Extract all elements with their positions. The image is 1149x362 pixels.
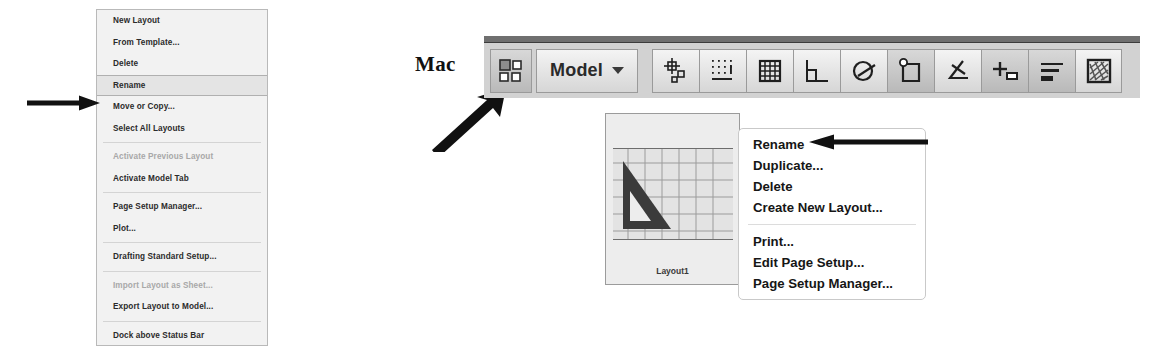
grid-snap-icon [755,56,785,86]
transparency-button[interactable] [1075,49,1122,93]
mac-menu-item[interactable]: Print... [739,231,925,252]
model-tab-button[interactable]: Model [536,49,638,93]
dynamic-ucs-button[interactable] [981,49,1028,93]
polar-tracking-button[interactable] [840,49,887,93]
windows-menu-item[interactable]: Rename [97,75,267,97]
status-toolbar: Model [484,36,1140,98]
lineweight-icon [1037,56,1067,86]
menu-separator [103,142,261,143]
layout-thumbnail[interactable]: Layout1 [605,113,740,285]
ortho-mode-button[interactable] [793,49,840,93]
mac-layout-context-menu[interactable]: RenameDuplicate...DeleteCreate New Layou… [738,128,926,300]
mac-menu-item[interactable]: Duplicate... [739,155,925,176]
object-snap-icon [896,56,926,86]
snap-mode-icon [661,56,691,86]
layout-grid-icon [498,58,524,84]
chevron-down-icon [612,67,624,74]
grid-display-button[interactable] [699,49,746,93]
grid-snap-button[interactable] [746,49,793,93]
windows-menu-item[interactable]: Dock above Status Bar [97,325,267,347]
toolbar-top-divider [484,36,1140,43]
arrow-right-icon [27,95,101,111]
menu-separator [103,192,261,193]
object-snap-button[interactable] [887,49,934,93]
triangle-set-square-icon [613,149,733,240]
snap-mode-button[interactable] [652,49,699,93]
menu-separator [103,242,261,243]
layout-thumbnail-label: Layout1 [606,266,739,276]
mac-menu-item[interactable]: Create New Layout... [739,197,925,218]
status-toggle-group [652,49,1122,93]
polar-tracking-icon [849,56,879,86]
menu-separator [748,224,916,225]
arrow-left-icon [808,134,928,150]
windows-layout-context-menu[interactable]: New LayoutFrom Template...DeleteRenameMo… [96,9,268,346]
mac-menu-item[interactable]: Page Setup Manager... [739,273,925,294]
windows-menu-item[interactable]: Activate Model Tab [97,168,267,190]
windows-menu-item[interactable]: Drafting Standard Setup... [97,246,267,268]
windows-menu-item: Import Layout as Sheet... [97,275,267,297]
dynamic-ucs-icon [990,56,1020,86]
model-tab-label: Model [550,60,603,81]
layout-preview-canvas [613,148,733,240]
windows-menu-item[interactable]: Delete [97,53,267,75]
grid-display-icon [708,56,738,86]
windows-menu-item[interactable]: Plot... [97,218,267,240]
mac-menu-item[interactable]: Delete [739,176,925,197]
mac-label: Mac [415,52,456,77]
windows-menu-item[interactable]: Move or Copy... [97,96,267,118]
object-snap-tracking-button[interactable] [934,49,981,93]
transparency-icon [1084,56,1114,86]
ortho-mode-icon [802,56,832,86]
mac-menu-item[interactable]: Edit Page Setup... [739,252,925,273]
windows-menu-item[interactable]: Export Layout to Model... [97,296,267,318]
windows-menu-item[interactable]: Page Setup Manager... [97,196,267,218]
menu-separator [103,271,261,272]
windows-menu-item[interactable]: From Template... [97,32,267,54]
windows-menu-item[interactable]: Select All Layouts [97,118,267,140]
menu-separator [103,321,261,322]
object-snap-tracking-icon [943,56,973,86]
lineweight-button[interactable] [1028,49,1075,93]
windows-menu-item: Activate Previous Layout [97,146,267,168]
windows-menu-item[interactable]: New Layout [97,10,267,32]
layout-switch-button[interactable] [490,49,532,93]
